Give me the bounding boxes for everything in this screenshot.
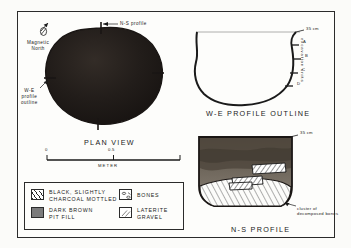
magnetic-north-label: Magnetic North	[27, 40, 49, 52]
legend-label-black-charcoal: BLACK, SLIGHTLY CHARCOAL MOTTLED	[49, 189, 117, 202]
excavation-units-axis-label: excavation units	[300, 38, 305, 82]
unit-mark-b: B	[305, 53, 308, 58]
we-profile-outline-pointer-label: W-E profile outline	[21, 88, 38, 107]
legend-label-dark-brown-fill: DARK BROWN PIT FILL	[49, 207, 93, 220]
archaeology-figure: Magnetic North N-S profile W-E profile o…	[0, 0, 351, 248]
plan-view-caption: PLAN VIEW	[84, 138, 135, 147]
scale-mid-label: 0.5	[108, 147, 115, 152]
we-profile-caption: W-E PROFILE OUTLINE	[206, 109, 310, 118]
bones-swatch	[119, 189, 132, 200]
legend-label-bones: BONES	[137, 192, 159, 199]
hatch-swatch	[31, 189, 44, 200]
scale-unit-label: METER	[98, 163, 118, 168]
legend-label-laterite-gravel: LATERITE GRAVEL	[137, 207, 168, 220]
scale-start-label: 0	[45, 147, 48, 152]
we-depth-top-label: 35 cm	[306, 26, 319, 31]
stipple-swatch	[119, 207, 132, 218]
decomposed-bones-annotation: cluster of decomposed bones	[297, 206, 338, 217]
ns-profile-pointer-label: N-S profile	[120, 21, 147, 27]
ns-depth-top-label: 35 cm	[300, 130, 313, 135]
solid-gray-swatch	[31, 207, 44, 218]
ns-profile-caption: N-S PROFILE	[231, 225, 290, 234]
